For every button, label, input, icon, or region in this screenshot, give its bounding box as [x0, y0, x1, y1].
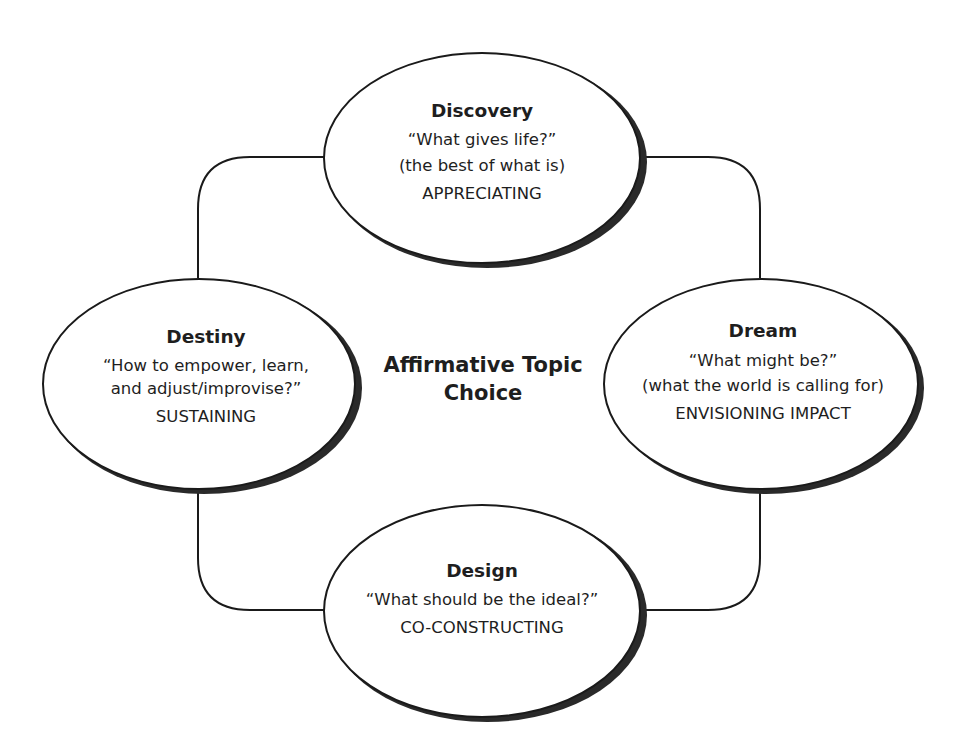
- node-title: Dream: [729, 320, 798, 341]
- center-topic: Affirmative Topic Choice: [383, 353, 582, 405]
- node-action: SUSTAINING: [156, 407, 256, 426]
- connector-dream-design: [640, 490, 760, 610]
- node-action: ENVISIONING IMPACT: [675, 404, 851, 423]
- node-question-line-2: and adjust/improvise?”: [111, 379, 302, 398]
- appreciative-inquiry-cycle-diagram: Discovery “What gives life?” (the best o…: [0, 0, 960, 755]
- node-question: “What should be the ideal?”: [366, 590, 598, 609]
- node-title: Discovery: [431, 100, 533, 121]
- connector-destiny-design: [198, 490, 324, 610]
- node-dream: Dream “What might be?” (what the world i…: [604, 279, 924, 494]
- ellipse-outline: [324, 505, 640, 717]
- connector-discovery-destiny: [198, 157, 324, 278]
- center-label-line-2: Choice: [444, 381, 523, 405]
- node-destiny: Destiny “How to empower, learn, and adju…: [43, 279, 362, 494]
- node-discovery: Discovery “What gives life?” (the best o…: [324, 53, 647, 268]
- center-label-line-1: Affirmative Topic: [383, 353, 582, 377]
- node-question: “What gives life?”: [408, 130, 556, 149]
- node-subtitle: (what the world is calling for): [642, 376, 884, 395]
- node-subtitle: (the best of what is): [399, 156, 565, 175]
- node-action: CO-CONSTRUCTING: [400, 618, 563, 637]
- node-question-line-1: “How to empower, learn,: [103, 356, 309, 375]
- connector-discovery-dream: [640, 157, 760, 278]
- node-title: Design: [446, 560, 518, 581]
- node-title: Destiny: [166, 326, 245, 347]
- node-question: “What might be?”: [689, 351, 837, 370]
- node-action: APPRECIATING: [422, 184, 542, 203]
- node-design: Design “What should be the ideal?” CO-CO…: [324, 505, 647, 722]
